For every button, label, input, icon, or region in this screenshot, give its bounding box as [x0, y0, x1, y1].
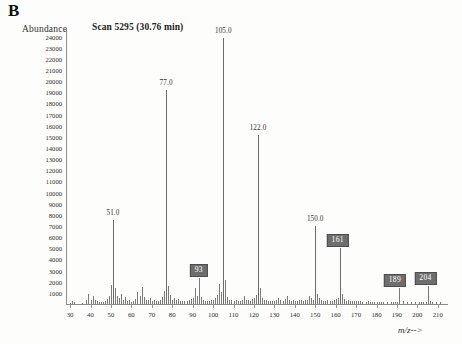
- y-axis-tick-label: 17000: [46, 111, 62, 118]
- spectrum-peak: [399, 288, 400, 304]
- spectrum-peak: [256, 295, 257, 304]
- spectrum-peak: [358, 301, 359, 304]
- spectrum-peak: [88, 294, 89, 304]
- x-axis-tick-mark: [397, 304, 398, 308]
- spectrum-peak: [205, 301, 206, 304]
- spectrum-peak: [305, 300, 306, 304]
- spectrum-peak: [379, 302, 380, 304]
- spectrum-peak: [238, 301, 239, 304]
- x-axis-tick-mark: [295, 304, 296, 308]
- x-axis-tick-mark: [193, 304, 194, 308]
- panel-letter: B: [8, 2, 19, 19]
- spectrum-peak: [240, 301, 241, 304]
- spectrum-peak: [280, 300, 281, 304]
- spectrum-peak: [264, 300, 265, 304]
- spectrum-peak: [323, 301, 324, 304]
- x-axis-tick-label: 50: [108, 311, 115, 318]
- x-axis-tick-label: 200: [412, 311, 422, 318]
- spectrum-peak: [383, 302, 384, 304]
- y-axis-tick-label: 15000: [46, 133, 62, 140]
- spectrum-peak: [74, 302, 75, 304]
- spectrum-peak: [278, 298, 279, 304]
- spectrum-peak: [244, 296, 245, 304]
- x-axis-line: [66, 304, 448, 305]
- peak-label-161: 161: [327, 234, 349, 247]
- spectrum-peak: [307, 300, 308, 304]
- spectrum-peak: [217, 295, 218, 304]
- x-axis-tick-label: 60: [128, 311, 135, 318]
- spectrum-peak: [180, 301, 181, 304]
- x-axis-title: m/z-->: [398, 325, 423, 335]
- y-axis-tick-label: 7000: [49, 223, 62, 230]
- spectrum-peak: [174, 298, 175, 304]
- spectrum-peak: [150, 298, 151, 304]
- spectrum-peak: [215, 298, 216, 304]
- peak-label-77-0: 77.0: [160, 79, 173, 87]
- spectrum-peak: [221, 292, 222, 304]
- spectrum-peak: [109, 296, 110, 304]
- spectrum-peak: [137, 292, 138, 304]
- spectrum-peak: [317, 294, 318, 304]
- spectrum-peak: [115, 288, 116, 304]
- peak-label-105-0: 105.0: [215, 27, 232, 35]
- x-axis-tick-mark: [315, 304, 316, 308]
- spectrum-peak: [428, 286, 429, 304]
- spectrum-peak: [250, 301, 251, 304]
- spectrum-peak: [140, 296, 141, 304]
- spectrum-peak: [436, 302, 437, 304]
- x-axis-tick-label: 110: [229, 311, 239, 318]
- spectrum-peak: [158, 301, 159, 304]
- spectrum-peak: [119, 298, 120, 304]
- spectrum-peak: [97, 301, 98, 304]
- spectrum-peak: [242, 300, 243, 304]
- spectrum-peak: [368, 301, 369, 304]
- x-axis-tick-label: 160: [331, 311, 341, 318]
- spectrum-peak: [315, 226, 316, 304]
- spectrum-peak: [176, 300, 177, 304]
- spectrum-peak: [419, 302, 420, 304]
- spectrum-peak: [82, 303, 83, 304]
- spectrum-peak: [121, 294, 122, 304]
- y-axis-tick-label: 3000: [49, 267, 62, 274]
- spectrum-peak: [133, 301, 134, 304]
- spectrum-peak: [203, 300, 204, 304]
- y-axis-tick-label: 11000: [46, 178, 62, 185]
- spectrum-peak: [321, 300, 322, 304]
- spectrum-peak: [146, 300, 147, 304]
- spectrum-peak: [195, 288, 196, 304]
- spectrum-peak: [440, 302, 441, 304]
- spectrum-peak: [426, 302, 427, 304]
- y-axis-tick-label: 9000: [49, 200, 62, 207]
- spectrum-peak: [117, 296, 118, 304]
- x-axis-tick-mark: [356, 304, 357, 308]
- spectrum-peak: [289, 300, 290, 304]
- spectrum-peak: [411, 302, 412, 304]
- spectrum-peak: [313, 300, 314, 304]
- y-axis-tick-label: 21000: [46, 67, 62, 74]
- spectrum-peak: [391, 302, 392, 304]
- spectrum-peak: [211, 300, 212, 304]
- spectrum-peak: [387, 302, 388, 304]
- x-axis-tick-label: 190: [392, 311, 402, 318]
- spectrum-peak: [223, 38, 224, 304]
- x-axis-tick-label: 180: [371, 311, 381, 318]
- spectrum-peak: [252, 299, 253, 304]
- spectrum-peak: [162, 297, 163, 304]
- spectrum-peak: [332, 301, 333, 304]
- y-axis-tick-label: 12000: [46, 167, 62, 174]
- spectrum-peak: [178, 299, 179, 304]
- peak-label-204: 204: [414, 272, 436, 285]
- spectrum-peak: [415, 302, 416, 304]
- spectrum-peak: [319, 298, 320, 304]
- spectrum-peak: [297, 301, 298, 304]
- spectrum-peak: [101, 302, 102, 304]
- y-axis-tick-label: 6000: [49, 234, 62, 241]
- spectrum-peak: [342, 294, 343, 304]
- spectrum-peak: [111, 285, 112, 304]
- spectrum-peak: [311, 298, 312, 304]
- spectrum-peak: [246, 300, 247, 304]
- spectrum-peak: [293, 300, 294, 304]
- spectrum-peak: [325, 301, 326, 304]
- y-axis-tick-label: 1000: [49, 289, 62, 296]
- spectrum-peak: [154, 300, 155, 304]
